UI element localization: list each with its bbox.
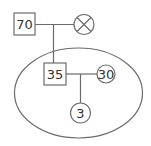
child-age: 3 — [76, 106, 84, 121]
mother-node: 30 — [97, 65, 115, 83]
grandfather-node: 70 — [14, 13, 35, 35]
child-node: 3 — [71, 103, 91, 123]
household-ellipse — [15, 48, 143, 138]
grandmother-node — [74, 15, 94, 35]
genogram-diagram: 70 35 30 3 — [0, 0, 151, 146]
mother-age: 30 — [98, 67, 115, 82]
grandfather-age: 70 — [16, 17, 33, 32]
father-node: 35 — [44, 63, 66, 85]
father-age: 35 — [47, 67, 64, 82]
